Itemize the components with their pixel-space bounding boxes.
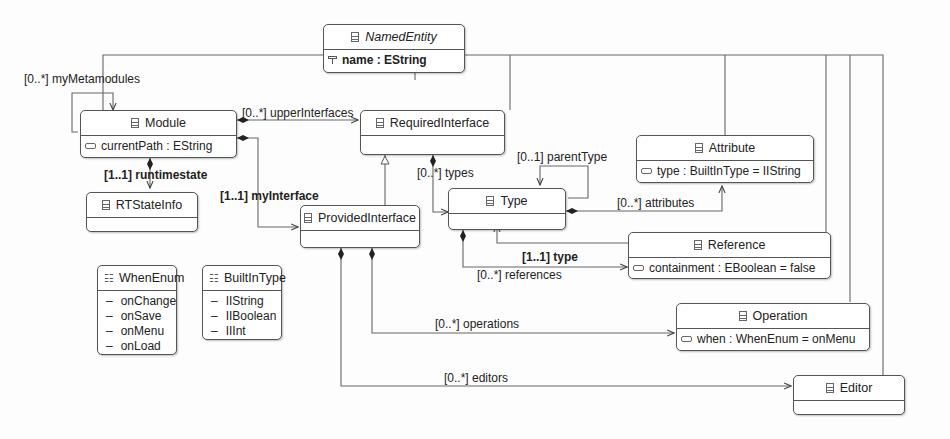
enum-when-enum[interactable]: ☷WhenEnum –onChange –onSave –onMenu –onL…: [97, 265, 177, 355]
class-rt-state-info[interactable]: RTStateInfo: [86, 192, 198, 232]
class-name: NamedEntity: [365, 30, 437, 44]
enum-literal: –onSave: [106, 308, 168, 323]
attribute-text: when : WhenEnum = onMenu: [697, 332, 855, 346]
class-icon: [131, 118, 139, 128]
attribute-icon: [85, 143, 96, 149]
label-editors: [0..*] editors: [444, 371, 508, 385]
class-name: Module: [145, 116, 186, 130]
class-type[interactable]: Type: [448, 188, 566, 230]
class-reference[interactable]: Reference containment : EBoolean = false: [628, 232, 831, 279]
attribute-text: type : BuiltInType = IIString: [657, 164, 801, 178]
enum-literal: –IIBoolean: [211, 308, 273, 323]
label-upper-interfaces: [0..*] upperInterfaces: [242, 106, 353, 120]
attribute-icon: [641, 168, 652, 174]
class-module[interactable]: Module currentPath : EString: [80, 110, 237, 158]
class-name: RTStateInfo: [116, 198, 182, 212]
class-provided-interface[interactable]: ProvidedInterface: [300, 205, 420, 248]
enum-name: BuiltInType: [224, 271, 286, 285]
class-named-entity[interactable]: NamedEntity name : EString: [323, 24, 465, 73]
attribute-text: containment : EBoolean = false: [649, 261, 815, 275]
class-icon: [102, 200, 110, 210]
enum-literal: –IIString: [211, 293, 273, 308]
abstract-class-icon: [351, 32, 359, 42]
enum-literal: –onLoad: [106, 338, 168, 353]
enum-builtin-type[interactable]: ☷BuiltInType –IIString –IIBoolean –IIInt: [202, 265, 282, 340]
enum-literal: –IIInt: [211, 323, 273, 338]
class-icon: [826, 383, 834, 393]
enum-name: WhenEnum: [119, 271, 184, 285]
id-attribute-icon: [328, 56, 337, 64]
attribute-icon: [633, 265, 644, 271]
label-my-interface: [1..1] myInterface: [220, 189, 319, 203]
class-name: Reference: [708, 238, 766, 252]
class-icon: [376, 118, 384, 128]
class-name: ProvidedInterface: [318, 211, 416, 225]
class-operation[interactable]: Operation when : WhenEnum = onMenu: [676, 303, 870, 351]
class-attribute[interactable]: Attribute type : BuiltInType = IIString: [636, 135, 814, 183]
class-name: Type: [500, 194, 527, 208]
label-type: [1..1] type: [522, 250, 578, 264]
attribute-icon: [681, 336, 692, 342]
label-operations: [0..*] operations: [435, 317, 519, 331]
class-editor[interactable]: Editor: [793, 375, 905, 415]
enum-literal: –onChange: [106, 293, 168, 308]
label-attributes: [0..*] attributes: [617, 196, 694, 210]
class-name: Editor: [840, 381, 873, 395]
class-name: RequiredInterface: [390, 116, 489, 130]
label-parent-type: [0..1] parentType: [517, 150, 607, 164]
class-icon: [739, 311, 747, 321]
enum-literal: –onMenu: [106, 323, 168, 338]
class-name: Attribute: [709, 141, 756, 155]
class-icon: [304, 213, 312, 223]
label-my-metamodules: [0..*] myMetamodules: [24, 72, 140, 86]
label-runtimestate: [1..1] runtimestate: [104, 168, 207, 182]
class-name: Operation: [753, 309, 808, 323]
class-icon: [486, 196, 494, 206]
enum-icon: ☷: [104, 272, 114, 285]
attribute-text: currentPath : EString: [101, 139, 212, 153]
label-types: [0..*] types: [417, 166, 474, 180]
enum-icon: ☷: [209, 272, 219, 285]
class-icon: [694, 240, 702, 250]
class-required-interface[interactable]: RequiredInterface: [360, 110, 505, 155]
class-icon: [695, 143, 703, 153]
label-references: [0..*] references: [477, 268, 562, 282]
attribute-text: name : EString: [342, 53, 427, 67]
